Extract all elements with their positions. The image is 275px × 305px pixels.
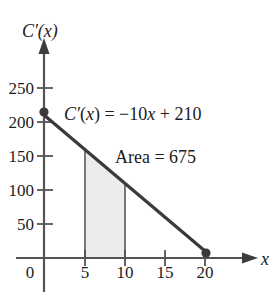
y-tick-label-250: 250 — [0, 80, 34, 97]
x-tick-label-5: 5 — [68, 264, 102, 281]
equation-constant-term: + 210 — [155, 104, 201, 124]
x-tick-label-15: 15 — [148, 264, 182, 281]
equation-function-name: C — [64, 104, 76, 124]
y-tick-label-50: 50 — [0, 216, 34, 233]
equation-annotation: C′(x) = −10x + 210 — [64, 105, 201, 123]
line-endpoint-marker-left — [39, 107, 48, 116]
equation-variable: x — [86, 104, 94, 124]
chart-figure: C'(x) x 0 250 200 150 100 50 5 10 15 20 … — [0, 0, 275, 305]
origin-tick-label: 0 — [22, 264, 38, 281]
x-axis-label: x — [261, 250, 269, 268]
y-tick-label-150: 150 — [0, 148, 34, 165]
y-tick-label-200: 200 — [0, 114, 34, 131]
x-tick-label-10: 10 — [108, 264, 142, 281]
line-endpoint-marker-right — [201, 248, 210, 257]
equation-equals-coefficient: = −10 — [100, 104, 147, 124]
x-axis-arrowhead — [242, 253, 258, 264]
x-tick-label-20: 20 — [188, 264, 222, 281]
y-axis-label: C'(x) — [22, 22, 58, 40]
y-tick-label-100: 100 — [0, 182, 34, 199]
area-annotation: Area = 675 — [115, 148, 196, 166]
